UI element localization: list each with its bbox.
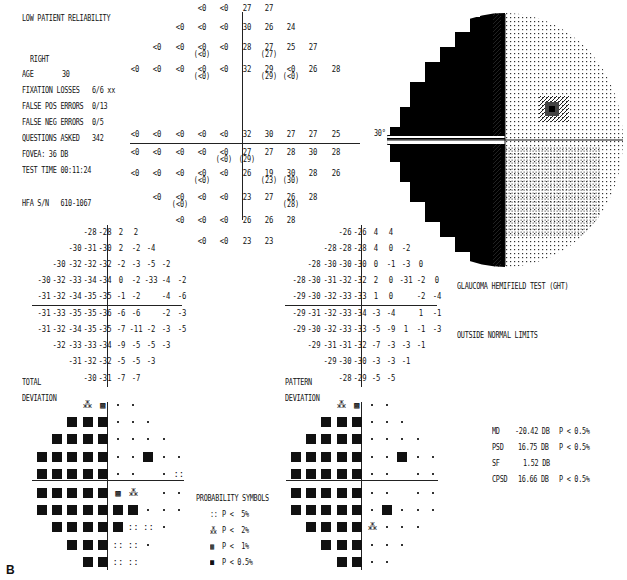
deviation-value: -6 [126,309,145,318]
deviation-value: -30 [305,325,324,334]
figure-label: B [6,563,15,577]
prob-5pct-marker: :: [126,557,140,567]
sensitivity-value: <0 [215,65,234,74]
fixation-losses-value: 6/6 xx [92,86,115,95]
deviation-value: -4 [427,292,446,301]
prob-normal-marker [147,509,149,511]
prob-normal-marker [386,473,388,475]
prob-05pct-marker [321,417,331,427]
prob-05pct-marker [67,434,77,444]
prob-normal-marker [371,456,373,458]
prob-normal-marker [386,526,388,528]
sensitivity-value: 28 [304,169,323,178]
scotoma-patch [539,96,569,122]
legend-item-label: P < 2% [222,526,249,535]
deviation-value: 1 [412,309,431,318]
deviation-value: -3 [381,341,400,350]
sensitivity-value: <0 [148,148,167,157]
sensitivity-value: <0 [148,193,167,202]
prob-normal-marker [163,492,165,494]
prob-5pct-marker: :: [126,540,140,550]
deviation-value: -31 [305,309,324,318]
sensitivity-value: <0 [193,130,212,139]
prob-normal-marker [117,473,119,475]
deviation-value: -4 [157,292,176,301]
prob-normal-marker [386,404,388,406]
prob-05pct-marker [128,505,138,515]
sensitivity-value: <0 [170,193,189,202]
sensitivity-value: <0 [215,23,234,32]
sensitivity-value: <0 [148,169,167,178]
sensitivity-value: 30 [259,130,278,139]
deviation-value: 0 [366,260,385,269]
prob-05pct-marker [352,540,362,550]
deviation-value: -28 [96,228,115,237]
sensitivity-value: <0 [215,4,234,13]
deviation-value: -34 [96,341,115,350]
prob-1pct-marker: ▩ [96,400,110,410]
prob-normal-marker [371,421,373,423]
deviation-value: -4 [157,276,176,285]
deviation-value: -1 [412,341,431,350]
prob-05pct-marker [352,469,362,479]
prob-normal-marker [386,456,388,458]
prob-normal-marker [386,544,388,546]
sensitivity-value: <0 [193,237,212,246]
prob-05pct-marker [83,469,93,479]
sensitivity-value: 27 [259,193,278,202]
deviation-value: 2 [366,276,385,285]
index-value: 16.75 DB [518,443,549,452]
sensitivity-value: <0 [193,169,212,178]
age-label: AGE [22,70,34,79]
sensitivity-value: 27 [237,148,256,157]
prob-05pct-marker [52,505,62,515]
hfa-serial: HFA S/N 610-1067 [22,199,91,208]
pattern-deviation-label2: DEVIATION [285,394,320,403]
deviation-value: 1 [397,325,416,334]
prob-1pct-marker: ▩ [350,400,364,410]
prob-2pct-marker: ⁂ [126,488,140,498]
prob-05pct-marker [321,540,331,550]
symbol-1pct-icon: ▩ [210,542,214,551]
sensitivity-value: 28 [326,65,345,74]
greyscale-plot [385,12,625,268]
pd-vertical-axis [361,225,362,387]
deviation-value: -30 [305,292,324,301]
prob-normal-marker [371,438,373,440]
deviation-value: -2 [111,260,130,269]
deviation-value: -32 [336,276,355,285]
sensitivity-value: 32 [237,65,256,74]
deviation-value: -34 [65,325,84,334]
total-deviation-label: TOTAL [22,378,41,387]
sensitivity-value: 26 [304,65,323,74]
prob-05pct-marker [98,540,108,550]
sensitivity-value: <0 [148,43,167,52]
fixation-losses-label: FIXATION LOSSES [22,86,80,95]
deviation-value: -35 [81,309,100,318]
index-value: -20.42 DB [515,427,550,436]
prob-5pct-marker: :: [141,522,155,532]
pdp-horizontal-axis [286,480,438,481]
prob-05pct-marker [321,452,331,462]
sensitivity-value: 26 [237,216,256,225]
sensitivity-value: 27 [237,4,256,13]
deviation-value: -30 [320,260,339,269]
prob-05pct-marker [98,557,108,567]
deviation-value: -11 [126,325,145,334]
pdp-vertical-axis [361,402,362,570]
greyscale-scale-label: 30° [374,129,386,138]
sensitivity-repeat-value: (30) [280,177,302,185]
deviation-value: 4 [366,244,385,253]
sensitivity-value: <0 [193,148,212,157]
deviation-value: -2 [412,292,431,301]
sensitivity-value: <0 [170,43,189,52]
prob-05pct-marker [291,469,301,479]
sensitivity-repeat-value: (<0) [191,177,213,185]
prob-normal-marker [163,509,165,511]
deviation-value: -32 [320,325,339,334]
deviation-value: -30 [305,276,324,285]
sensitivity-value: 29 [259,65,278,74]
questions-label: QUESTIONS ASKED [22,134,80,143]
prob-normal-marker [432,509,434,511]
deviation-value: -31 [81,244,100,253]
